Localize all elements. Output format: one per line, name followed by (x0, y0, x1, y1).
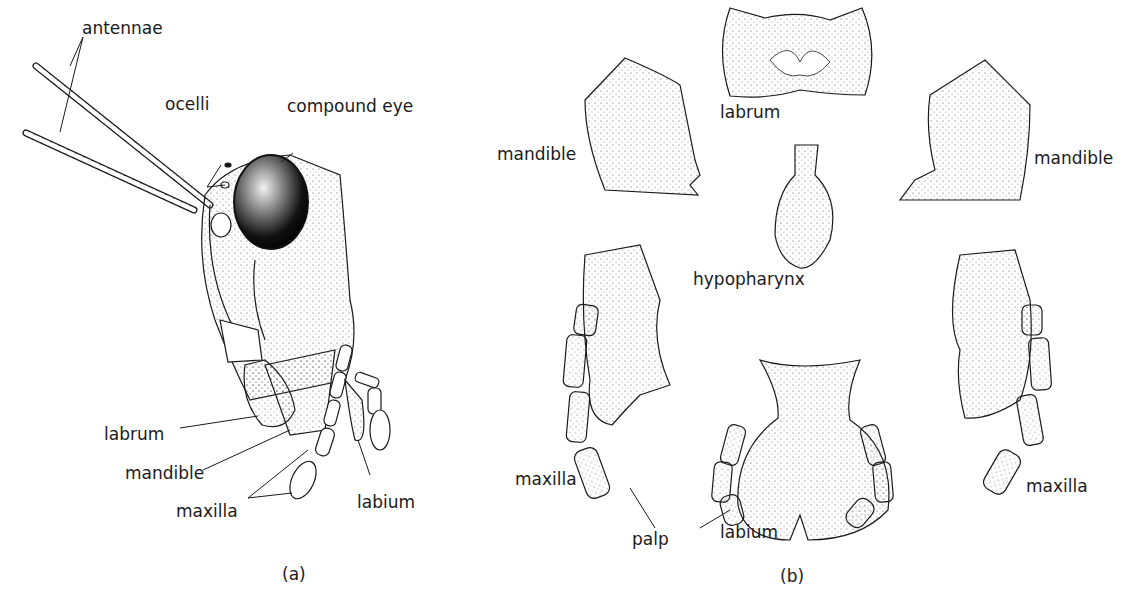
label-maxilla-a: maxilla (176, 503, 238, 520)
label-labrum-b: labrum (720, 104, 780, 121)
label-labrum-a: labrum (104, 426, 164, 443)
label-mandible-left: mandible (497, 146, 576, 163)
maxilla-right (953, 250, 1032, 418)
label-antennae: antennae (82, 20, 163, 37)
panel-b-mouthparts (563, 8, 1052, 540)
mandible-right (900, 60, 1030, 200)
labrum-piece (723, 8, 872, 97)
label-labium-b: labium (720, 524, 778, 541)
maxilla-left (583, 245, 670, 425)
label-maxilla-right: maxilla (1026, 478, 1088, 495)
hypopharynx-piece (775, 145, 833, 268)
label-mandible-right: mandible (1034, 150, 1113, 167)
label-maxilla-left: maxilla (515, 471, 577, 488)
label-labium-a: labium (357, 494, 415, 511)
diagram-artwork (0, 0, 1125, 608)
mandible-left (585, 58, 700, 195)
label-compound-eye: compound eye (287, 98, 413, 115)
label-palp: palp (632, 531, 669, 548)
labial-palp (345, 371, 390, 450)
caption-b: (b) (780, 568, 804, 585)
compound-eye (234, 155, 308, 249)
label-mandible-a: mandible (125, 465, 204, 482)
label-hypopharynx: hypopharynx (693, 271, 805, 288)
caption-a: (a) (282, 566, 306, 583)
label-ocelli: ocelli (165, 96, 209, 113)
antenna-upper (36, 66, 210, 205)
